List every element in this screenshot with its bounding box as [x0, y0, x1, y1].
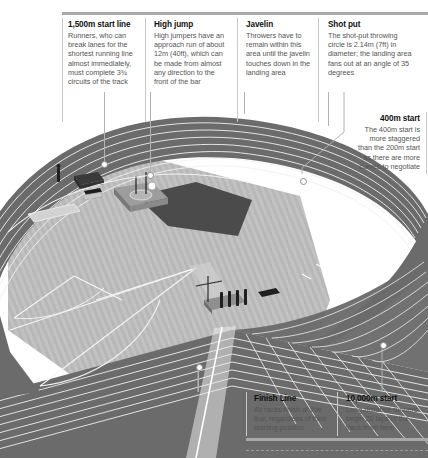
panel-divider-finish: [246, 392, 247, 436]
callout-finish-line-body: All races finish at this line, regardles…: [254, 405, 328, 433]
callout-high-jump-title: High jump: [154, 20, 230, 30]
panel-divider-1: [145, 18, 146, 122]
panel-divider-400m: [426, 112, 427, 174]
panel-divider-2: [237, 18, 238, 122]
shot-put-marker-dot: [148, 182, 156, 190]
callout-1500m-start: 1,500m start line Runners, who can break…: [62, 16, 144, 86]
callout-shot-put: Shot put The shot-put throwing circle is…: [322, 16, 420, 77]
callout-high-jump: High jump High jumpers have an approach …: [148, 16, 236, 86]
callout-javelin-title: Javelin: [246, 20, 312, 30]
infographic-canvas: 1,500m start line Runners, who can break…: [0, 0, 428, 458]
callout-javelin-body: Throwers have to remain within this area…: [246, 31, 312, 77]
callout-shot-put-title: Shot put: [328, 20, 414, 30]
bottom-dashed-rule: [246, 450, 428, 451]
panel-divider-10000m: [337, 392, 338, 436]
callout-1500m-start-body: Runners, who can break lanes for the sho…: [68, 31, 138, 86]
panel-divider-3: [318, 18, 319, 122]
callout-shot-put-body: The shot-put throwing circle is 2.14m (7…: [328, 31, 414, 77]
athlete-figure: [57, 164, 61, 182]
callout-10000m-start: 10,000m start Long-distance runners begi…: [340, 392, 426, 433]
callout-400m-start-title: 400m start: [354, 114, 420, 124]
callout-10000m-start-title: 10,000m start: [346, 394, 420, 404]
anchor-dot-400m-start: [300, 178, 307, 185]
top-divider-rule: [62, 12, 428, 15]
leader-line-finish-angled: [180, 356, 310, 396]
anchor-dot-high-jump: [147, 172, 154, 179]
anchor-dot-10000m: [380, 342, 387, 349]
leader-line-1500m: [104, 92, 105, 164]
callout-1500m-start-title: 1,500m start line: [68, 20, 138, 30]
callout-10000m-start-body: Long-distance runners begin 25 laps of t…: [346, 405, 420, 433]
anchor-dot-finish: [196, 364, 203, 371]
leader-line-10000m: [300, 344, 420, 396]
leader-line-high-jump: [150, 92, 151, 174]
callout-400m-start: 400m start The 400m start is more stagge…: [352, 112, 426, 171]
callout-javelin: Javelin Throwers have to remain within t…: [240, 16, 318, 77]
bottom-divider-rule: [246, 438, 428, 441]
callout-high-jump-body: High jumpers have an approach run of abo…: [154, 31, 230, 86]
callout-finish-line: Finish Line All races finish at this lin…: [248, 392, 334, 433]
anchor-dot-1500m: [101, 161, 108, 168]
callout-finish-line-title: Finish Line: [254, 394, 328, 404]
callout-400m-start-body: The 400m start is more staggered than th…: [354, 125, 420, 171]
leader-line-javelin-b: [244, 110, 245, 111]
